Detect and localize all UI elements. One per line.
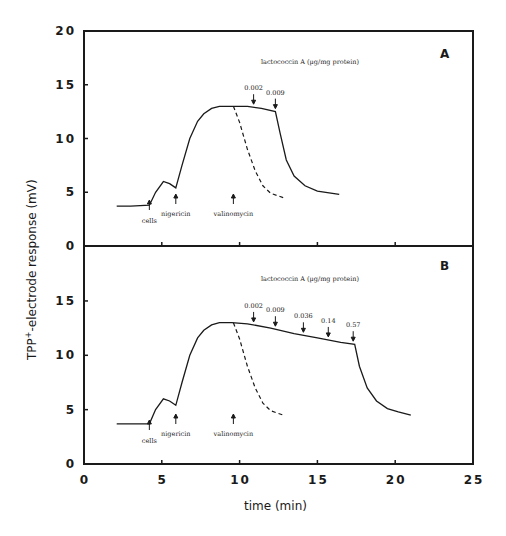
x-tick-label: 25 xyxy=(464,473,485,487)
y-tick-label: 20 xyxy=(55,24,76,38)
event-label-cells: cells xyxy=(142,217,157,225)
y-tick-label: 5 xyxy=(66,185,76,199)
event-annotations: cellsnigericinvalinomycin0.0020.009cells… xyxy=(142,84,361,445)
arrowhead-icon xyxy=(252,100,256,104)
lactococcin-solid-trace xyxy=(117,323,411,424)
y-axis-title-prefix: TPP xyxy=(25,338,39,361)
event-label-valinomycin: valinomycin xyxy=(213,430,254,438)
y-tick-label: 10 xyxy=(55,132,76,146)
valinomycin-dashed-trace xyxy=(233,323,283,415)
event-label-valinomycin: valinomycin xyxy=(213,210,254,218)
y-tick-label: 10 xyxy=(55,348,76,362)
y-tick-label: 0 xyxy=(66,239,76,253)
y-axis-title-main: -electrode response (mV) xyxy=(25,179,39,331)
x-tick-label: 15 xyxy=(308,473,329,487)
dose-label: 0.57 xyxy=(346,321,360,329)
y-tick-label: 0 xyxy=(66,457,76,471)
y-axis-title-superscript: + xyxy=(24,331,33,338)
panel-label-b: B xyxy=(440,259,449,273)
dose-label: 0.002 xyxy=(244,84,263,92)
panel-b-annotation-header: lactococcin A (µg/mg protein) xyxy=(261,275,359,283)
arrowhead-icon xyxy=(174,194,178,198)
valinomycin-dashed-trace xyxy=(233,106,283,197)
x-tick-label: 20 xyxy=(386,473,407,487)
arrowhead-icon xyxy=(351,337,355,341)
tpp-electrode-chart: 051015200510150510152025 A B lactococcin… xyxy=(0,0,506,536)
dose-label: 0.14 xyxy=(321,317,335,325)
y-tick-label: 15 xyxy=(55,294,76,308)
dose-label: 0.009 xyxy=(266,89,285,97)
data-traces xyxy=(117,106,411,424)
dose-label: 0.009 xyxy=(266,306,285,314)
arrowhead-icon xyxy=(231,194,235,198)
arrowhead-icon xyxy=(252,318,256,322)
arrowhead-icon xyxy=(273,105,277,109)
panel-label-a: A xyxy=(440,47,450,61)
y-tick-label: 5 xyxy=(66,403,76,417)
y-axis-title: TPP+-electrode response (mV) xyxy=(24,179,39,361)
event-label-nigericin: nigericin xyxy=(161,210,190,218)
x-tick-label: 0 xyxy=(80,473,90,487)
arrowhead-icon xyxy=(147,200,151,204)
arrowhead-icon xyxy=(301,328,305,332)
arrowhead-icon xyxy=(174,414,178,418)
x-axis-title: time (min) xyxy=(244,499,307,513)
event-label-nigericin: nigericin xyxy=(161,430,190,438)
arrowhead-icon xyxy=(231,414,235,418)
dose-label: 0.002 xyxy=(244,302,263,310)
x-tick-label: 10 xyxy=(230,473,251,487)
y-tick-label: 15 xyxy=(55,78,76,92)
dose-label: 0.036 xyxy=(294,312,313,320)
x-tick-label: 5 xyxy=(158,473,168,487)
panel-a-annotation-header: lactococcin A (µg/mg protein) xyxy=(261,58,359,66)
lactococcin-solid-trace xyxy=(117,106,340,206)
arrowhead-icon xyxy=(326,333,330,337)
arrowhead-icon xyxy=(273,322,277,326)
event-label-cells: cells xyxy=(142,437,157,445)
